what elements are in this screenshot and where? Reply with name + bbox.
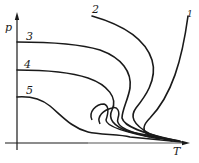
y-axis-label: p bbox=[5, 22, 12, 33]
curve-2 bbox=[92, 16, 172, 141]
curve-label-4: 4 bbox=[24, 59, 31, 70]
curve-3 bbox=[17, 42, 178, 141]
curve-label-5: 5 bbox=[26, 85, 33, 96]
x-axis-arrow-icon bbox=[182, 141, 190, 145]
x-axis-label: T bbox=[173, 146, 180, 157]
y-axis-arrow-icon bbox=[15, 12, 19, 20]
curve-label-2: 2 bbox=[92, 4, 99, 15]
curve-label-3: 3 bbox=[26, 31, 33, 42]
curve-label-1: 1 bbox=[187, 10, 193, 19]
curve-1 bbox=[144, 16, 188, 140]
phase-diagram: p T 1 2 3 4 5 bbox=[0, 0, 199, 163]
diagram-canvas bbox=[0, 0, 199, 163]
